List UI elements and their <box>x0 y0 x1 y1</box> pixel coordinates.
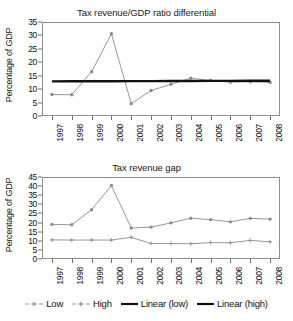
data-point <box>110 184 113 187</box>
data-point <box>50 93 53 96</box>
data-point <box>268 240 272 244</box>
series-line-low <box>52 237 270 243</box>
data-point <box>169 221 172 224</box>
x-tick-mark <box>191 259 192 263</box>
x-tick-label: 2008 <box>274 267 284 285</box>
x-tick-mark <box>270 116 271 120</box>
x-tick-mark <box>52 259 53 263</box>
x-tick-mark <box>171 259 172 263</box>
series-line-linear-low <box>52 81 270 82</box>
y-tick-label: 30 <box>28 30 37 40</box>
data-point <box>90 238 94 242</box>
y-tick-label: 10 <box>28 236 37 246</box>
y-tick-mark <box>38 231 42 232</box>
y-tick-mark <box>38 177 42 178</box>
chart-title-top: Tax revenue/GDP ratio differential <box>0 7 293 18</box>
legend-label: Linear (high) <box>217 298 268 309</box>
legend-item: Linear (low) <box>121 298 188 309</box>
y-tick-mark <box>38 102 42 103</box>
x-tick-label: 2006 <box>234 124 244 142</box>
x-tick-mark <box>211 116 212 120</box>
x-tick-mark <box>92 259 93 263</box>
x-tick-label: 2004 <box>194 124 204 142</box>
y-tick-mark <box>38 259 42 260</box>
y-tick-label: 35 <box>28 17 37 27</box>
data-point <box>228 241 232 245</box>
legend-item: Linear (high) <box>197 298 268 309</box>
data-point <box>169 83 172 86</box>
y-tick-label: 0 <box>33 111 37 121</box>
legend-swatch-high <box>72 300 90 308</box>
x-tick-mark <box>111 259 112 263</box>
x-tick-mark <box>72 259 73 263</box>
x-tick-label: 2004 <box>194 267 204 285</box>
data-point <box>130 226 133 229</box>
y-tick-label: 45 <box>28 172 37 182</box>
x-tick-mark <box>230 259 231 263</box>
x-tick-label: 2002 <box>155 267 165 285</box>
x-tick-label: 2008 <box>274 124 284 142</box>
x-tick-label: 2005 <box>214 267 224 285</box>
y-tick-mark <box>38 116 42 117</box>
x-tick-label: 2003 <box>174 267 184 285</box>
legend-label: High <box>93 298 112 309</box>
y-tick-mark <box>38 62 42 63</box>
y-tick-label: 35 <box>28 190 37 200</box>
y-tick-mark <box>38 240 42 241</box>
y-tick-label: 5 <box>33 98 37 108</box>
series-line-high <box>52 186 270 228</box>
x-tick-mark <box>131 116 132 120</box>
y-tick-label: 20 <box>28 57 37 67</box>
x-tick-label: 1998 <box>75 124 85 142</box>
x-tick-mark <box>250 116 251 120</box>
chart-panel-tax-revenue-gdp-ratio-differential: Tax revenue/GDP ratio differential Perce… <box>0 0 293 160</box>
y-tick-label: 30 <box>28 199 37 209</box>
legend-label: Linear (low) <box>141 298 188 309</box>
data-point <box>169 242 173 246</box>
x-tick-label: 2007 <box>254 267 264 285</box>
data-point <box>70 238 74 242</box>
y-tick-label: 40 <box>28 181 37 191</box>
data-point <box>248 238 252 242</box>
x-tick-label: 2007 <box>254 124 264 142</box>
series-layer-bottom <box>42 177 280 259</box>
y-tick-mark <box>38 89 42 90</box>
x-tick-label: 2001 <box>135 267 145 285</box>
legend-swatch-linear-low <box>121 300 138 308</box>
chart-panel-tax-revenue-gap: Tax revenue gap Percentage of GDP 051015… <box>0 155 293 295</box>
x-tick-mark <box>151 259 152 263</box>
figure-legend: LowHighLinear (low)Linear (high) <box>0 298 293 309</box>
data-point <box>149 242 153 246</box>
x-tick-mark <box>191 116 192 120</box>
x-tick-label: 2006 <box>234 267 244 285</box>
y-tick-label: 20 <box>28 218 37 228</box>
x-tick-mark <box>52 116 53 120</box>
y-tick-mark <box>38 22 42 23</box>
y-tick-mark <box>38 204 42 205</box>
y-tick-mark <box>38 222 42 223</box>
data-point <box>90 208 93 211</box>
data-point <box>209 218 212 221</box>
x-tick-label: 2000 <box>115 267 125 285</box>
x-tick-label: 2001 <box>135 124 145 142</box>
y-tick-mark <box>38 75 42 76</box>
data-point <box>70 93 73 96</box>
data-point <box>50 223 53 226</box>
x-tick-label: 1999 <box>95 124 105 142</box>
x-tick-mark <box>72 116 73 120</box>
x-tick-mark <box>230 116 231 120</box>
series-layer-top <box>42 22 280 116</box>
plot-area-top: 0510152025303519971998199920002001200220… <box>42 22 280 116</box>
y-tick-label: 5 <box>33 245 37 255</box>
x-tick-mark <box>211 259 212 263</box>
data-point <box>189 242 193 246</box>
x-tick-mark <box>171 116 172 120</box>
data-point <box>149 89 152 92</box>
x-tick-mark <box>250 259 251 263</box>
data-point <box>129 235 133 239</box>
legend-item: High <box>72 298 112 309</box>
y-tick-mark <box>38 213 42 214</box>
x-tick-label: 2005 <box>214 124 224 142</box>
x-tick-label: 1999 <box>95 267 105 285</box>
data-point <box>130 102 133 105</box>
